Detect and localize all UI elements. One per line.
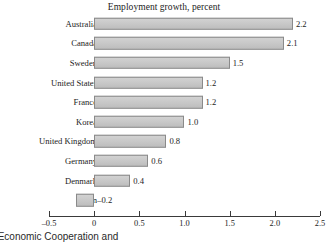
category-label: Denmark — [65, 176, 97, 186]
bar — [94, 96, 202, 109]
bar-value-label: 0.4 — [133, 176, 144, 186]
bar-row: Denmark0.4 — [0, 171, 328, 191]
bar-value-label: 0.8 — [169, 136, 180, 146]
bar-value-label: 0.6 — [151, 156, 162, 166]
bar-value-label: 1.0 — [188, 117, 199, 127]
x-axis-tick — [185, 211, 186, 216]
bar — [94, 18, 293, 31]
category-label: Australia — [65, 19, 97, 29]
category-label: United States — [51, 78, 97, 88]
bar-row: United Kingdom0.8 — [0, 132, 328, 152]
category-label: Canada — [71, 38, 97, 48]
bar — [94, 76, 202, 89]
bar — [94, 116, 184, 129]
x-axis-line — [49, 216, 320, 217]
bar — [94, 155, 148, 168]
x-axis-tick-label: 2.5 — [315, 219, 325, 228]
x-axis-tick — [94, 211, 95, 216]
bar — [94, 174, 130, 187]
employment-growth-bar-chart: Employment growth, percent Australia2.2C… — [0, 0, 328, 243]
category-label: Germany — [65, 156, 97, 166]
x-axis-tick-label: 0.5 — [134, 219, 144, 228]
bar-row: Korea1.0 — [0, 112, 328, 132]
bar-value-label: 1.2 — [206, 78, 217, 88]
plot-area: Australia2.2Canada2.1Sweden1.5United Sta… — [0, 14, 328, 210]
bar-row: Sweden1.5 — [0, 53, 328, 73]
bar — [76, 194, 94, 207]
bar-row: Australia2.2 — [0, 14, 328, 34]
bar-value-label: 2.1 — [287, 38, 298, 48]
bar-value-label: 1.2 — [206, 97, 217, 107]
footer-caption: or Economic Cooperation and — [0, 231, 118, 242]
category-label: United Kingdom — [39, 136, 97, 146]
bar-value-label: 1.5 — [233, 58, 244, 68]
bar-row: Germany0.6 — [0, 151, 328, 171]
bar-row: United States1.2 — [0, 73, 328, 93]
x-axis-tick — [320, 211, 321, 216]
x-axis-tick — [49, 211, 50, 216]
bar — [94, 57, 230, 70]
bar — [94, 135, 166, 148]
x-axis-tick-label: 0 — [92, 219, 96, 228]
x-axis-tick-label: 1.5 — [224, 219, 234, 228]
x-axis-tick-label: 2.0 — [270, 219, 280, 228]
category-label: Sweden — [70, 58, 97, 68]
bar-value-label: –0.2 — [97, 195, 112, 205]
x-axis-tick-label: –0.5 — [42, 219, 57, 228]
x-axis-tick — [275, 211, 276, 216]
bar-row: Canada2.1 — [0, 34, 328, 54]
bar-value-label: 2.2 — [296, 19, 307, 29]
bar-row: France1.2 — [0, 92, 328, 112]
bar — [94, 37, 284, 50]
x-axis-tick — [139, 211, 140, 216]
bar-row: Japan–0.2 — [0, 190, 328, 210]
x-axis-tick-label: 1.0 — [179, 219, 189, 228]
x-axis-tick — [230, 211, 231, 216]
chart-title: Employment growth, percent — [0, 2, 328, 12]
